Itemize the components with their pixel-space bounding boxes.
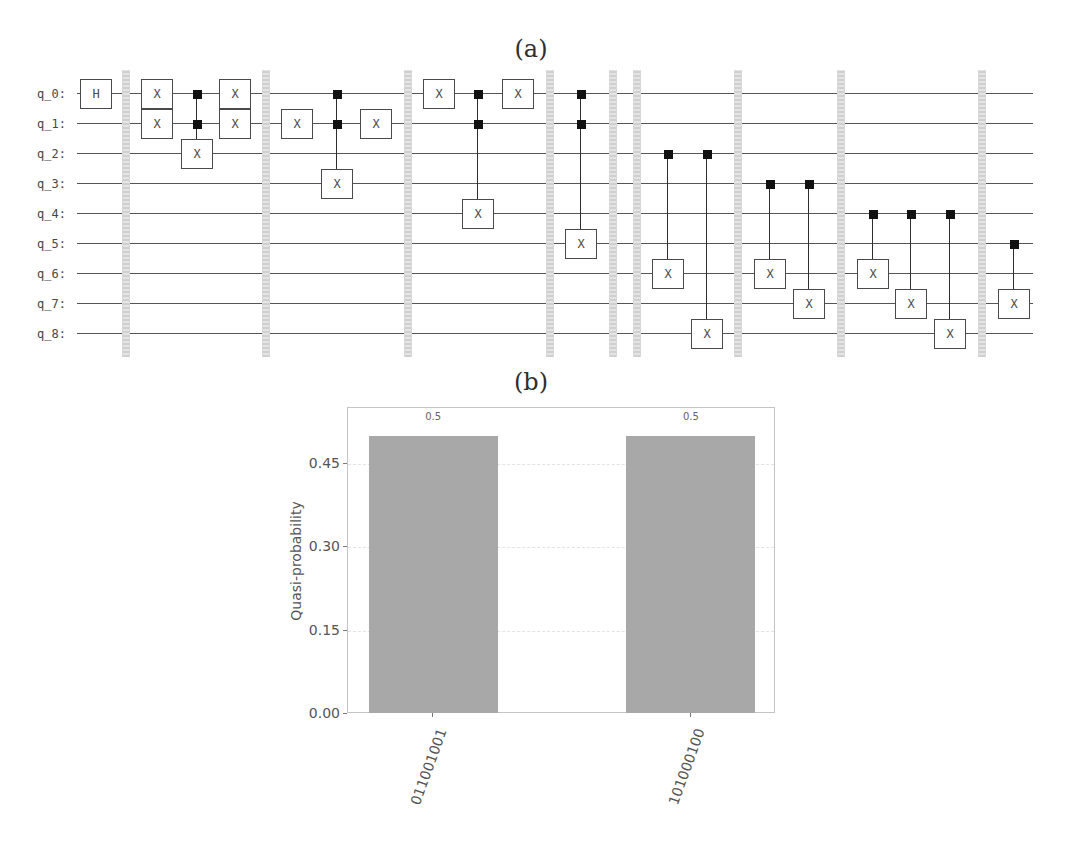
x-gate: X bbox=[141, 79, 173, 109]
gate-label: X bbox=[577, 237, 584, 251]
barrier bbox=[122, 70, 130, 357]
gate-label: X bbox=[231, 117, 238, 131]
controlled-x-target-gate: X bbox=[691, 319, 723, 349]
y-tick-mark bbox=[343, 713, 347, 714]
y-tick-label: 0.45 bbox=[309, 455, 340, 471]
controlled-x-target-gate: X bbox=[565, 229, 597, 259]
qubit-label: q_3: bbox=[37, 177, 66, 191]
panel-b-label: (b) bbox=[514, 368, 548, 396]
gate-label: X bbox=[153, 87, 160, 101]
controlled-x-target-gate: X bbox=[857, 259, 889, 289]
gate-label: H bbox=[92, 87, 99, 101]
barrier bbox=[633, 70, 641, 357]
gate-label: X bbox=[153, 117, 160, 131]
control-dot-icon bbox=[193, 120, 202, 129]
controlled-x-target-gate: X bbox=[462, 199, 494, 229]
x-gate: X bbox=[281, 109, 313, 139]
control-dot-icon bbox=[664, 150, 673, 159]
x-gate: X bbox=[502, 79, 534, 109]
control-line bbox=[667, 154, 668, 274]
control-dot-icon bbox=[333, 120, 342, 129]
x-gate: X bbox=[360, 109, 392, 139]
control-dot-icon bbox=[907, 210, 916, 219]
x-gate: X bbox=[423, 79, 455, 109]
gate-label: X bbox=[193, 147, 200, 161]
control-dot-icon bbox=[577, 120, 586, 129]
y-tick-label: 0.00 bbox=[309, 705, 340, 721]
control-dot-icon bbox=[946, 210, 955, 219]
gate-label: X bbox=[766, 267, 773, 281]
control-dot-icon bbox=[805, 180, 814, 189]
plot-area: 0.50.5 bbox=[347, 407, 775, 713]
bar-value-label: 0.5 bbox=[425, 411, 441, 423]
qubit-label: q_8: bbox=[37, 327, 66, 341]
qubit-wire bbox=[77, 273, 1033, 274]
control-dot-icon bbox=[474, 120, 483, 129]
control-dot-icon bbox=[766, 180, 775, 189]
barrier bbox=[262, 70, 270, 357]
bar bbox=[626, 436, 755, 713]
control-dot-icon bbox=[1010, 240, 1019, 249]
qubit-wire bbox=[77, 243, 1033, 244]
x-tick-label: 011001001 bbox=[407, 726, 449, 807]
qubit-wire bbox=[77, 303, 1033, 304]
gate-label: X bbox=[372, 117, 379, 131]
x-tick-mark bbox=[432, 713, 433, 717]
barrier bbox=[404, 70, 412, 357]
barrier bbox=[978, 70, 986, 357]
controlled-x-target-gate: X bbox=[652, 259, 684, 289]
controlled-x-target-gate: X bbox=[793, 289, 825, 319]
control-dot-icon bbox=[474, 90, 483, 99]
bar bbox=[369, 436, 498, 713]
gate-label: X bbox=[907, 297, 914, 311]
figure: (a) q_0:q_1:q_2:q_3:q_4:q_5:q_6:q_7:q_8:… bbox=[0, 0, 1067, 845]
barrier bbox=[546, 70, 554, 357]
control-line bbox=[580, 94, 581, 244]
qubit-wire bbox=[77, 333, 1033, 334]
qubit-wire bbox=[77, 213, 1033, 214]
qubit-label: q_6: bbox=[37, 267, 66, 281]
x-gate: X bbox=[219, 79, 251, 109]
control-line bbox=[706, 154, 707, 334]
gate-label: X bbox=[946, 327, 953, 341]
y-axis-label: Quasi-probability bbox=[288, 501, 304, 620]
control-line bbox=[808, 184, 809, 304]
control-dot-icon bbox=[577, 90, 586, 99]
barrier bbox=[837, 70, 845, 357]
x-tick-mark bbox=[690, 713, 691, 717]
controlled-x-target-gate: X bbox=[181, 139, 213, 169]
control-line bbox=[477, 94, 478, 214]
gate-label: X bbox=[805, 297, 812, 311]
gate-label: X bbox=[293, 117, 300, 131]
gate-label: X bbox=[474, 207, 481, 221]
gate-label: X bbox=[435, 87, 442, 101]
qubit-label: q_0: bbox=[37, 87, 66, 101]
gate-label: X bbox=[703, 327, 710, 341]
y-tick-label: 0.30 bbox=[309, 538, 340, 554]
qubit-wire bbox=[77, 183, 1033, 184]
bar-value-label: 0.5 bbox=[683, 411, 699, 423]
x-tick-label: 101000100 bbox=[665, 726, 707, 807]
control-dot-icon bbox=[193, 90, 202, 99]
controlled-x-target-gate: X bbox=[895, 289, 927, 319]
controlled-x-target-gate: X bbox=[934, 319, 966, 349]
control-dot-icon bbox=[703, 150, 712, 159]
control-line bbox=[949, 214, 950, 334]
x-gate: X bbox=[141, 109, 173, 139]
controlled-x-target-gate: X bbox=[321, 169, 353, 199]
qubit-label: q_7: bbox=[37, 297, 66, 311]
qubit-label: q_5: bbox=[37, 237, 66, 251]
y-tick-mark bbox=[343, 630, 347, 631]
h-gate: H bbox=[80, 79, 112, 109]
gate-label: X bbox=[333, 177, 340, 191]
barrier bbox=[734, 70, 742, 357]
qubit-label: q_2: bbox=[37, 147, 66, 161]
y-tick-mark bbox=[343, 463, 347, 464]
x-gate: X bbox=[219, 109, 251, 139]
gate-label: X bbox=[869, 267, 876, 281]
gate-label: X bbox=[1010, 297, 1017, 311]
controlled-x-target-gate: X bbox=[998, 289, 1030, 319]
y-tick-mark bbox=[343, 546, 347, 547]
gate-label: X bbox=[231, 87, 238, 101]
qubit-label: q_1: bbox=[37, 117, 66, 131]
